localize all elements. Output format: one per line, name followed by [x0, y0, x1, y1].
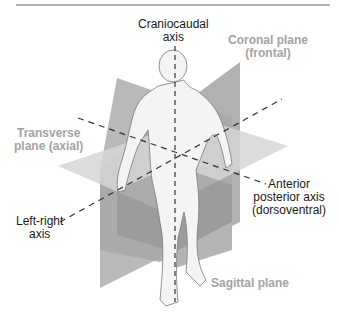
left-right-axis-label: Left-right axis: [16, 215, 63, 241]
transverse-plane-label: Transverse plane (axial): [14, 127, 83, 153]
sagittal-plane-label: Sagittal plane: [211, 277, 289, 290]
coronal-line2: (frontal): [228, 47, 308, 60]
coronal-plane-label: Coronal plane (frontal): [228, 34, 308, 60]
craniocaudal-line2: axis: [138, 31, 209, 44]
left-right-line2: axis: [16, 228, 63, 241]
sagittal-line1: Sagittal plane: [211, 277, 289, 290]
anterior-posterior-axis-label: Anterior posterior axis (dorsoventral): [252, 178, 326, 217]
transverse-line2: plane (axial): [14, 140, 83, 153]
craniocaudal-axis-label: Craniocaudal axis: [138, 18, 209, 44]
ap-line3: (dorsoventral): [252, 204, 326, 217]
